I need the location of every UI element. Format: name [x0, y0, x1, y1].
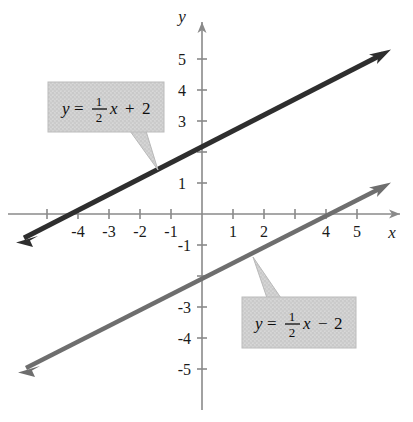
x-tick-label-4: 4 [322, 223, 330, 240]
y-tick-label--3: -3 [178, 299, 191, 316]
figure-background [0, 0, 413, 422]
x-tick-label--3: -3 [102, 223, 115, 240]
eq-upper-frac-denominator: 2 [96, 110, 103, 125]
eq-upper-variable: x [109, 99, 118, 118]
y-tick-label-4: 4 [178, 82, 186, 99]
x-tick-label-1: 1 [229, 223, 237, 240]
x-tick-label--2: -2 [133, 223, 146, 240]
eq-lower-lhs: y [253, 314, 263, 333]
x-axis-label: x [387, 223, 396, 242]
y-tick-label-1: 1 [178, 175, 186, 192]
y-tick-label--4: -4 [178, 330, 191, 347]
eq-lower-operator: − [318, 314, 328, 333]
x-tick-label--1: -1 [164, 223, 177, 240]
y-tick-label--1: -1 [178, 237, 191, 254]
x-tick-label-5: 5 [353, 223, 361, 240]
y-tick-label-3: 3 [178, 113, 186, 130]
eq-upper-frac-numerator: 1 [96, 94, 103, 109]
eq-lower-variable: x [302, 314, 311, 333]
eq-lower-frac-numerator: 1 [289, 309, 296, 324]
eq-upper-constant: 2 [142, 99, 151, 118]
eq-upper-equals: = [74, 99, 84, 118]
eq-lower-constant: 2 [334, 314, 343, 333]
eq-lower-equals: = [267, 314, 277, 333]
x-tick-label--4: -4 [71, 223, 84, 240]
eq-lower-frac-denominator: 2 [289, 325, 296, 340]
coordinate-plane-figure: y x -4 -3 -2 -1 1 2 4 5 5 4 3 1 -1 -3 -4… [0, 0, 413, 422]
eq-upper-operator: + [125, 99, 135, 118]
eq-upper-lhs: y [60, 99, 70, 118]
x-tick-label-2: 2 [260, 223, 268, 240]
y-axis-label: y [176, 7, 186, 26]
y-tick-label-5: 5 [178, 51, 186, 68]
y-tick-label--5: -5 [178, 361, 191, 378]
